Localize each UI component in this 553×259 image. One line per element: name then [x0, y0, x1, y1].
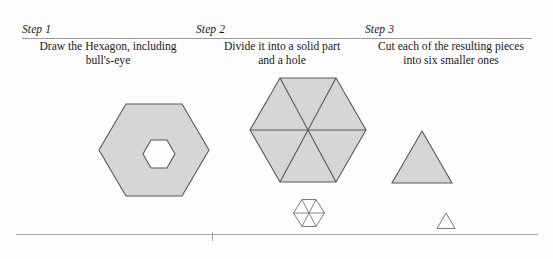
step3-triangle [388, 127, 458, 187]
figure-page: Step 1 Draw the Hexagon, including bull'… [0, 0, 553, 259]
step-2-description-line-2: and a hole [196, 54, 368, 68]
step1-hexagon-with-hole [96, 100, 212, 200]
bottom-rule [16, 234, 538, 235]
steps-header: Step 1 Draw the Hexagon, including bull'… [0, 22, 553, 82]
small-cut-line-upper-right [309, 200, 316, 214]
cut-line-lower-left [280, 130, 308, 182]
step3-small-triangle [434, 210, 460, 232]
bottom-rule-tick [212, 232, 213, 241]
step-3-description: Cut each of the resulting pieces into si… [365, 40, 537, 68]
step2-hexagon-six-triangles [246, 74, 370, 186]
cut-line-lower-right [308, 130, 336, 182]
small-cut-line-lower-right [309, 213, 316, 227]
small-cut-line-upper-left [302, 200, 309, 214]
triangle-shape [392, 131, 452, 183]
step-2-description-line-1: Divide it into a solid part [224, 40, 340, 53]
step-column-2: Step 2 Divide it into a solid part and a… [196, 22, 366, 36]
hexagon-outer-shape [99, 104, 209, 196]
step-1-description-line-1: Draw the Hexagon, including [39, 40, 176, 53]
hexagon-outer-shape [250, 78, 366, 182]
step-1-label: Step 1 [22, 22, 192, 36]
hexagon-bullseye-hole [143, 140, 175, 168]
step-3-label: Step 3 [365, 22, 535, 36]
cut-line-vertical-upper [280, 78, 308, 130]
step-3-description-line-1: Cut each of the resulting pieces [378, 40, 524, 53]
step-3-description-line-2: into six smaller ones [365, 54, 537, 68]
step2-small-hexagon-six-triangles [292, 198, 326, 228]
step-1-description-line-2: bull's-eye [22, 54, 194, 68]
step-2-label: Step 2 [196, 22, 366, 36]
step-column-1: Step 1 Draw the Hexagon, including bull'… [22, 22, 192, 36]
step-column-3: Step 3 Cut each of the resulting pieces … [365, 22, 535, 36]
small-triangle-shape [437, 213, 455, 229]
header-rule [22, 38, 532, 39]
cut-line-vertical-upper-right [308, 78, 336, 130]
small-hexagon-outer-shape [294, 200, 325, 227]
small-cut-line-lower-left [302, 213, 309, 227]
step-2-description: Divide it into a solid part and a hole [196, 40, 368, 68]
step-1-description: Draw the Hexagon, including bull's-eye [22, 40, 194, 68]
